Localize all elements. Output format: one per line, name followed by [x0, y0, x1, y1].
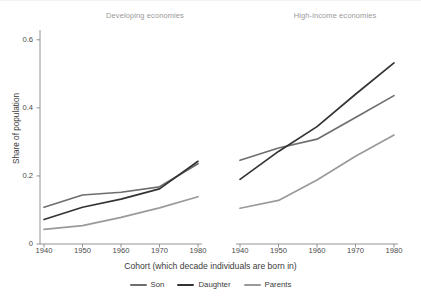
x-tick-label: 1970 — [145, 246, 175, 255]
legend-swatch-daughter — [177, 284, 194, 286]
x-tick-label: 1940 — [29, 246, 59, 255]
y-tick-label: 0.6 — [11, 35, 33, 44]
x-tick-label: 1980 — [379, 246, 409, 255]
x-tick-label: 1940 — [225, 246, 255, 255]
legend-label-parents: Parents — [265, 281, 292, 289]
series-line-son — [240, 96, 394, 161]
legend-item-son[interactable]: Son — [130, 281, 165, 289]
x-tick-label: 1960 — [106, 246, 136, 255]
legend-item-parents[interactable]: Parents — [244, 281, 292, 289]
series-line-daughter — [44, 161, 198, 219]
legend-swatch-son — [130, 284, 147, 286]
series-line-parents — [240, 135, 394, 208]
panel-developing — [37, 30, 203, 248]
chart-legend: SonDaughterParents — [0, 281, 421, 289]
series-line-daughter — [240, 63, 394, 179]
x-tick-label: 1950 — [264, 246, 294, 255]
panel-high-income — [236, 63, 398, 248]
chart-figure: Developing economies High-income economi… — [0, 0, 421, 299]
legend-label-son: Son — [151, 281, 165, 289]
legend-item-daughter[interactable]: Daughter — [177, 281, 230, 289]
x-tick-label: 1970 — [341, 246, 371, 255]
x-tick-label: 1950 — [68, 246, 98, 255]
y-tick-label: 0.4 — [11, 103, 33, 112]
legend-swatch-parents — [244, 284, 261, 286]
series-line-son — [44, 164, 198, 208]
legend-label-daughter: Daughter — [198, 281, 230, 289]
x-tick-label: 1980 — [183, 246, 213, 255]
y-tick-label: 0.2 — [11, 171, 33, 180]
x-tick-label: 1960 — [302, 246, 332, 255]
